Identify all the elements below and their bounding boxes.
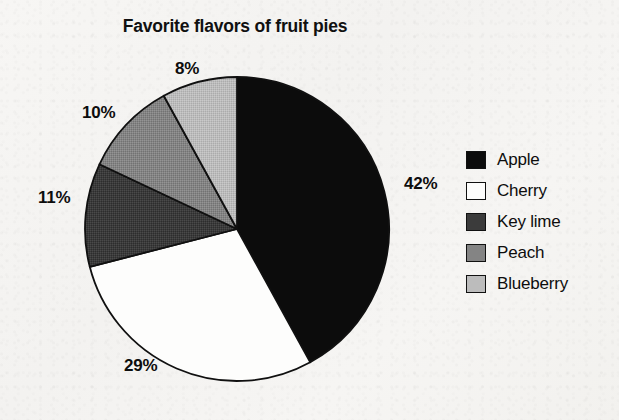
slice-label-cherry: 29% bbox=[124, 356, 157, 376]
slice-label-peach: 10% bbox=[82, 103, 115, 123]
legend-swatch-peach bbox=[466, 244, 486, 262]
legend-label-peach: Peach bbox=[497, 243, 544, 263]
legend-item-blueberry: Blueberry bbox=[466, 272, 616, 295]
legend-label-apple: Apple bbox=[497, 150, 539, 170]
slice-label-blueberry: 8% bbox=[175, 59, 199, 79]
legend-label-key-lime: Key lime bbox=[497, 212, 561, 232]
legend-swatch-blueberry bbox=[466, 275, 486, 293]
pie-svg bbox=[80, 72, 394, 386]
pie-chart-figure: Favorite flavors of fruit pies bbox=[0, 0, 619, 420]
legend-swatch-cherry bbox=[466, 182, 486, 200]
pie-chart-graphic bbox=[80, 72, 394, 386]
legend-item-peach: Peach bbox=[466, 241, 616, 264]
legend-label-blueberry: Blueberry bbox=[497, 274, 568, 294]
legend-item-apple: Apple bbox=[466, 148, 616, 171]
slice-label-apple: 42% bbox=[404, 174, 437, 194]
legend-label-cherry: Cherry bbox=[497, 181, 547, 201]
legend-swatch-key-lime bbox=[466, 213, 486, 231]
chart-legend: Apple Cherry Key lime Peach Blueberry bbox=[466, 148, 616, 295]
legend-item-cherry: Cherry bbox=[466, 179, 616, 202]
legend-swatch-apple bbox=[466, 151, 486, 169]
slice-label-key-lime: 11% bbox=[38, 188, 71, 208]
page-title: Favorite flavors of fruit pies bbox=[0, 16, 470, 37]
legend-item-key-lime: Key lime bbox=[466, 210, 616, 233]
